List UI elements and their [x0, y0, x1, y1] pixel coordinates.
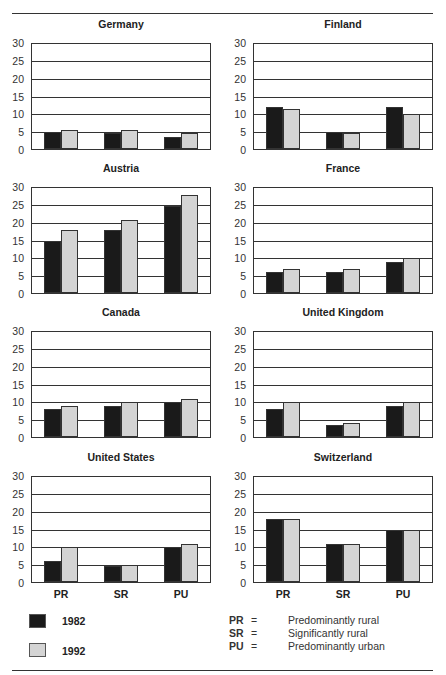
bar-pu-1982	[386, 530, 403, 583]
y-tick-label: 15	[6, 380, 24, 390]
plot-area	[253, 331, 433, 438]
bar-pu-1982	[164, 137, 181, 149]
y-tick-label: 25	[228, 344, 246, 354]
bar-pr-1992	[61, 547, 78, 582]
bar-sr-1992	[121, 130, 138, 149]
bar-pu-1982	[164, 206, 181, 294]
bar-pu-1992	[181, 195, 198, 293]
gridline	[32, 530, 210, 531]
legend-label-1982: 1982	[62, 615, 85, 627]
y-tick-label: 25	[6, 200, 24, 210]
bar-pr-1992	[61, 130, 78, 149]
y-tick-label: 25	[6, 344, 24, 354]
bar-pr-1992	[283, 109, 300, 149]
bar-pr-1982	[266, 107, 283, 149]
bar-pu-1992	[403, 530, 420, 583]
panel-title: Canada	[31, 306, 211, 318]
bar-pu-1992	[403, 258, 420, 293]
y-tick-label: 0	[6, 578, 24, 588]
legend-swatch-1982	[29, 614, 46, 628]
y-tick-label: 20	[6, 362, 24, 372]
x-category-label: PU	[161, 588, 201, 600]
y-tick-label: 15	[228, 92, 246, 102]
bar-pr-1982	[44, 132, 61, 150]
y-tick-label: 20	[228, 218, 246, 228]
panel-title: France	[253, 162, 433, 174]
bar-pr-1992	[283, 402, 300, 437]
gridline	[254, 61, 432, 62]
plot-area	[31, 331, 211, 438]
y-tick-label: 10	[6, 253, 24, 263]
chart-panel-austria: Austria051015202530	[0, 162, 220, 302]
y-tick-label: 20	[6, 507, 24, 517]
y-tick-label: 10	[6, 542, 24, 552]
y-tick-label: 20	[228, 507, 246, 517]
gridline	[32, 512, 210, 513]
gridline	[32, 97, 210, 98]
y-tick-label: 0	[228, 289, 246, 299]
bar-sr-1982	[104, 406, 121, 438]
bar-pr-1982	[44, 561, 61, 582]
y-tick-label: 20	[6, 74, 24, 84]
chart-panel-finland: Finland051015202530	[222, 18, 442, 158]
bar-pu-1992	[403, 114, 420, 149]
bar-sr-1982	[104, 133, 121, 149]
bar-pr-1982	[44, 241, 61, 294]
x-category-label: SR	[323, 588, 363, 600]
y-tick-label: 30	[228, 182, 246, 192]
y-tick-label: 30	[6, 326, 24, 336]
y-tick-label: 15	[228, 525, 246, 535]
plot-area	[253, 43, 433, 150]
y-tick-label: 5	[228, 560, 246, 570]
top-rule	[12, 13, 433, 14]
abbr-description: Predominantly urban	[288, 640, 385, 652]
y-tick-label: 25	[228, 200, 246, 210]
y-tick-label: 30	[6, 471, 24, 481]
bar-pr-1982	[266, 519, 283, 582]
y-tick-label: 20	[228, 362, 246, 372]
gridline	[32, 61, 210, 62]
chart-panel-france: France051015202530	[222, 162, 442, 302]
abbr-code: PR	[229, 614, 244, 626]
bar-pu-1992	[181, 399, 198, 438]
chart-panel-united-states: United States051015202530PRSRPU	[0, 451, 220, 591]
y-tick-label: 10	[6, 397, 24, 407]
y-tick-label: 25	[6, 489, 24, 499]
y-tick-label: 15	[228, 380, 246, 390]
y-tick-label: 20	[6, 218, 24, 228]
y-tick-label: 0	[6, 145, 24, 155]
y-tick-label: 5	[228, 127, 246, 137]
bar-sr-1992	[343, 269, 360, 294]
bar-pu-1992	[403, 402, 420, 437]
bar-pu-1992	[181, 133, 198, 149]
bar-pu-1992	[181, 544, 198, 583]
y-tick-label: 10	[228, 542, 246, 552]
abbr-code: PU	[229, 640, 244, 652]
y-tick-label: 25	[6, 56, 24, 66]
gridline	[254, 367, 432, 368]
gridline	[254, 494, 432, 495]
y-tick-label: 30	[6, 182, 24, 192]
bar-sr-1982	[104, 566, 121, 582]
legend-swatch-1992	[29, 643, 46, 657]
y-tick-label: 5	[6, 415, 24, 425]
panel-title: Switzerland	[253, 451, 433, 463]
y-tick-label: 15	[6, 236, 24, 246]
y-tick-label: 10	[228, 397, 246, 407]
gridline	[32, 367, 210, 368]
y-tick-label: 0	[228, 578, 246, 588]
gridline	[254, 241, 432, 242]
bar-pr-1982	[266, 272, 283, 293]
bar-sr-1992	[343, 423, 360, 437]
y-tick-label: 30	[6, 38, 24, 48]
y-tick-label: 5	[228, 271, 246, 281]
bar-pr-1992	[61, 406, 78, 438]
legend-label-1992: 1992	[62, 645, 85, 657]
bar-pr-1982	[266, 409, 283, 437]
bar-sr-1982	[326, 132, 343, 150]
x-category-label: PR	[41, 588, 81, 600]
gridline	[254, 385, 432, 386]
abbr-equals: =	[251, 627, 257, 639]
bar-sr-1992	[343, 544, 360, 583]
chart-panel-canada: Canada051015202530	[0, 306, 220, 446]
